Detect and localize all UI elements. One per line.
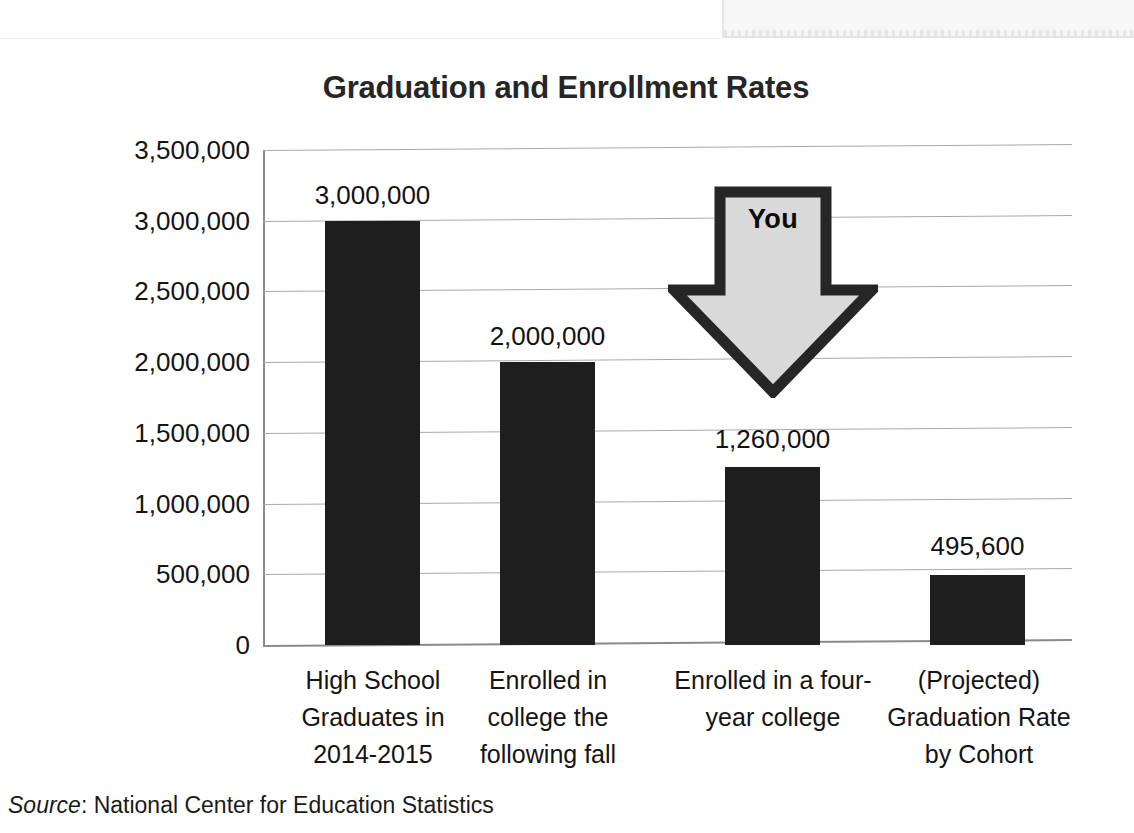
- source-note: Source: National Center for Education St…: [8, 792, 494, 819]
- bar-value-label: 3,000,000: [315, 180, 431, 211]
- bar-enrolled-four-year-college: [725, 467, 820, 645]
- source-value: National Center for Education Statistics: [94, 792, 494, 818]
- x-category-line: (Projected): [864, 662, 1094, 699]
- y-tick-label: 1,500,000: [90, 417, 250, 448]
- you-annotation-arrow: You: [668, 186, 878, 398]
- y-tick-label: 3,000,000: [90, 205, 250, 236]
- y-tick-label: 0: [90, 629, 250, 660]
- x-category-line: High School: [273, 662, 473, 699]
- chart-title: Graduation and Enrollment Rates: [0, 70, 1132, 106]
- y-axis-tick-labels: 3,500,000 3,000,000 2,500,000 2,000,000 …: [90, 150, 250, 645]
- x-category-label: (Projected) Graduation Rate by Cohort: [864, 662, 1094, 773]
- x-category-label: Enrolled in college the following fall: [448, 662, 648, 773]
- y-tick-label: 3,500,000: [90, 135, 250, 166]
- you-annotation-label: You: [668, 204, 878, 235]
- x-category-line: Enrolled in: [448, 662, 648, 699]
- y-tick-label: 500,000: [90, 559, 250, 590]
- bar-value-label: 2,000,000: [490, 321, 606, 352]
- x-category-line: Enrolled in a four-: [653, 662, 893, 699]
- x-axis-category-labels: High School Graduates in 2014-2015 Enrol…: [263, 662, 1072, 782]
- source-label: Source: [8, 792, 81, 818]
- x-category-line: Graduation Rate: [864, 699, 1094, 736]
- bar-value-label: 1,260,000: [715, 424, 831, 455]
- x-category-line: 2014-2015: [273, 736, 473, 773]
- y-tick-label: 2,500,000: [90, 276, 250, 307]
- source-separator: :: [81, 792, 94, 818]
- x-category-label: High School Graduates in 2014-2015: [273, 662, 473, 773]
- x-category-line: year college: [653, 699, 893, 736]
- y-axis-line: [263, 150, 265, 646]
- x-category-line: Graduates in: [273, 699, 473, 736]
- x-category-label: Enrolled in a four- year college: [653, 662, 893, 736]
- x-category-line: college the: [448, 699, 648, 736]
- bar-value-label: 495,600: [931, 531, 1025, 562]
- bar-enrolled-in-college: [500, 362, 595, 645]
- y-tick-label: 1,000,000: [90, 488, 250, 519]
- x-category-line: by Cohort: [864, 736, 1094, 773]
- bar-projected-graduation-rate: [930, 575, 1025, 645]
- x-category-line: following fall: [448, 736, 648, 773]
- bar-high-school-graduates: [325, 221, 420, 645]
- y-tick-label: 2,000,000: [90, 347, 250, 378]
- gridline: [263, 144, 1072, 151]
